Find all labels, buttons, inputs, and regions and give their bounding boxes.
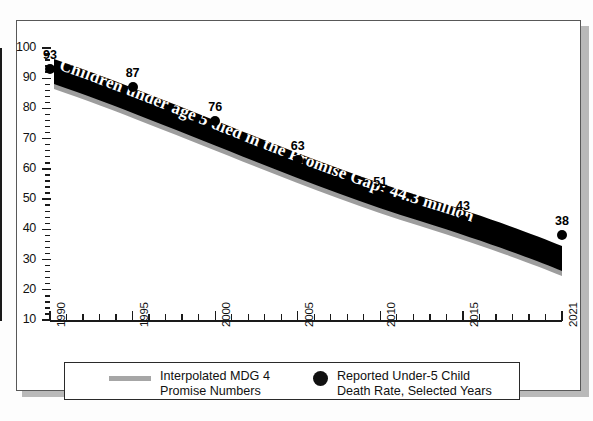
y-tick-major (42, 78, 51, 79)
x-tick-minor (363, 314, 364, 320)
y-tick-minor (45, 204, 50, 205)
y-tick-label: 100 (8, 40, 36, 54)
x-tick-minor (347, 314, 348, 320)
x-tick-minor (181, 314, 182, 320)
x-tick-major (215, 311, 216, 321)
y-tick-minor (45, 84, 50, 85)
legend-line-2: Promise Numbers (160, 384, 261, 398)
x-tick-major (132, 311, 133, 321)
y-tick-major (42, 168, 51, 169)
y-tick-minor (45, 241, 50, 242)
x-tick-minor (429, 314, 430, 320)
y-tick-minor (45, 180, 50, 181)
y-axis-line (0, 48, 2, 321)
data-point-dot (128, 82, 138, 92)
x-tick-minor (479, 314, 480, 320)
y-tick-label: 30 (8, 252, 36, 266)
data-point-dot (293, 155, 303, 165)
y-tick-minor (45, 271, 50, 272)
x-tick-minor (495, 314, 496, 320)
y-tick-minor (45, 174, 50, 175)
y-tick-major (42, 108, 51, 109)
x-tick-minor (314, 314, 315, 320)
y-tick-minor (45, 114, 50, 115)
x-tick-minor (413, 314, 414, 320)
chart-frame (16, 20, 581, 391)
data-point-label: 43 (456, 199, 470, 213)
y-tick-minor (45, 96, 50, 97)
y-tick-major (42, 289, 51, 290)
y-tick-minor (45, 277, 50, 278)
data-point-dot (210, 116, 220, 126)
x-tick-major (462, 311, 463, 321)
y-tick-minor (45, 156, 50, 157)
x-tick-minor (545, 314, 546, 320)
data-point-label: 87 (126, 66, 140, 80)
legend-item-interpolated: Interpolated MDG 4 Promise Numbers (109, 369, 270, 398)
x-tick-minor (396, 314, 397, 320)
x-tick-major (380, 311, 381, 321)
y-tick-label: 20 (8, 282, 36, 296)
y-tick-minor (45, 265, 50, 266)
x-tick-minor (446, 314, 447, 320)
chart-legend: Interpolated MDG 4 Promise Numbers Repor… (64, 362, 520, 400)
y-tick-minor (45, 162, 50, 163)
x-tick-minor (198, 314, 199, 320)
data-point-label: 63 (291, 139, 305, 153)
y-tick-minor (45, 132, 50, 133)
x-tick-minor (264, 314, 265, 320)
data-point-dot (45, 64, 55, 74)
data-point-label: 93 (43, 48, 57, 62)
y-tick-minor (45, 192, 50, 193)
y-tick-minor (45, 150, 50, 151)
legend-item-reported-label: Reported Under-5 Child Death Rate, Selec… (337, 369, 492, 398)
y-tick-minor (45, 253, 50, 254)
y-tick-major (42, 259, 51, 260)
y-tick-label: 50 (8, 191, 36, 205)
x-tick-minor (165, 314, 166, 320)
y-tick-minor (45, 301, 50, 302)
y-tick-minor (45, 211, 50, 212)
legend-line-1: Reported Under-5 Child (337, 369, 470, 383)
y-tick-minor (45, 126, 50, 127)
y-tick-label: 90 (8, 70, 36, 84)
x-tick-major (49, 311, 50, 321)
chart-page: 102030405060708090100 199019952000200520… (0, 0, 593, 421)
y-tick-minor (45, 295, 50, 296)
y-tick-label: 80 (8, 100, 36, 114)
x-tick-minor (512, 314, 513, 320)
line-swatch-icon (109, 376, 151, 381)
data-point-dot (375, 191, 385, 201)
x-tick-minor (231, 314, 232, 320)
x-tick-major (561, 311, 562, 321)
y-tick-minor (45, 144, 50, 145)
data-point-dot (458, 215, 468, 225)
y-tick-label: 70 (8, 131, 36, 145)
y-tick-minor (45, 283, 50, 284)
y-tick-minor (45, 247, 50, 248)
legend-item-interpolated-label: Interpolated MDG 4 Promise Numbers (160, 369, 270, 398)
x-tick-minor (82, 314, 83, 320)
y-tick-label: 10 (8, 312, 36, 326)
legend-line-2: Death Rate, Selected Years (337, 384, 492, 398)
y-tick-major (42, 198, 51, 199)
y-tick-minor (45, 223, 50, 224)
x-tick-minor (248, 314, 249, 320)
x-tick-minor (281, 314, 282, 320)
dot-swatch-icon (313, 371, 328, 386)
x-tick-minor (528, 314, 529, 320)
y-tick-major (42, 229, 51, 230)
data-point-label: 38 (555, 214, 569, 228)
y-tick-minor (45, 102, 50, 103)
x-tick-minor (115, 314, 116, 320)
y-tick-label: 40 (8, 221, 36, 235)
x-tick-minor (330, 314, 331, 320)
y-tick-minor (45, 186, 50, 187)
legend-line-1: Interpolated MDG 4 (160, 369, 270, 383)
x-tick-label: 2021 (567, 302, 579, 327)
data-point-label: 51 (373, 175, 387, 189)
x-tick-minor (66, 314, 67, 320)
data-point-dot (557, 230, 567, 240)
y-tick-minor (45, 120, 50, 121)
x-tick-minor (148, 314, 149, 320)
